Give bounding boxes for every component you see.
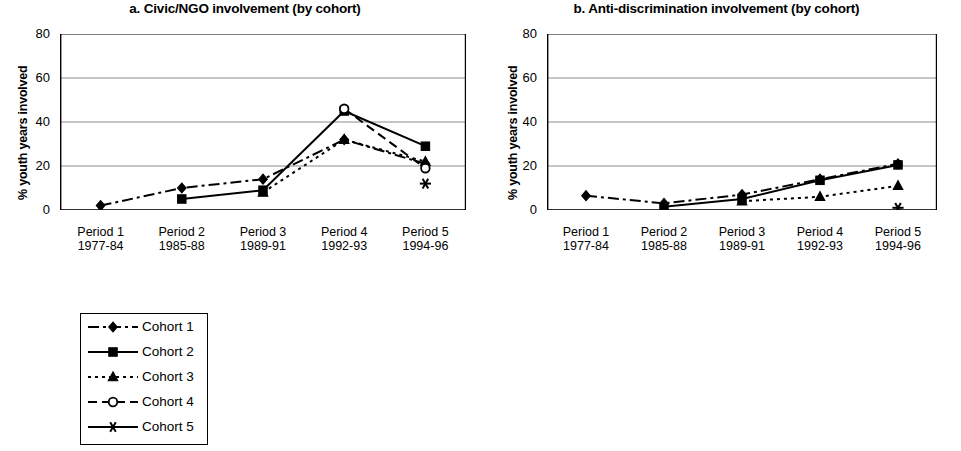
chart-panel-a: a. Civic/NGO involvement (by cohort) % y…	[0, 0, 490, 300]
x-category-years: 1994-96	[385, 239, 466, 253]
legend-label: Cohort 5	[142, 419, 194, 434]
y-tick-label: 60	[20, 71, 50, 84]
marker-diamond	[109, 322, 118, 332]
x-category-years: 1989-91	[703, 239, 781, 253]
legend-symbol-star	[85, 416, 141, 438]
x-category-years: 1985-88	[141, 239, 222, 253]
x-category-label: Period 51994-96	[859, 225, 937, 253]
x-category-label: Period 21985-88	[625, 225, 703, 253]
chart-b-svg	[547, 34, 937, 210]
x-category-years: 1992-93	[781, 239, 859, 253]
x-category-name: Period 2	[625, 225, 703, 239]
x-category-label: Period 41992-93	[781, 225, 859, 253]
y-tick-label: 80	[20, 27, 50, 40]
marker-square	[421, 142, 429, 150]
x-category-name: Period 2	[141, 225, 222, 239]
x-category-years: 1977-84	[60, 239, 141, 253]
y-tick-label: 20	[507, 159, 537, 172]
y-tick-label: 40	[507, 115, 537, 128]
legend-item-cohort-5[interactable]: Cohort 5	[81, 414, 207, 439]
marker-diamond	[259, 174, 268, 184]
marker-square	[178, 195, 186, 203]
x-category-label: Period 31989-91	[222, 225, 303, 253]
x-category-label: Period 31989-91	[703, 225, 781, 253]
legend-item-cohort-3[interactable]: Cohort 3	[81, 364, 207, 389]
marker-diamond	[178, 183, 187, 193]
x-category-label: Period 11977-84	[547, 225, 625, 253]
x-category-years: 1977-84	[547, 239, 625, 253]
x-category-name: Period 4	[304, 225, 385, 239]
chart-a-y-axis-label: % youth years involved	[16, 65, 30, 200]
marker-circle-open	[340, 105, 349, 114]
chart-b-title: b. Anti-discrimination involvement (by c…	[490, 1, 961, 16]
x-category-name: Period 4	[781, 225, 859, 239]
legend-symbol-triangle	[85, 366, 141, 388]
marker-circle-open	[109, 397, 118, 406]
marker-diamond	[96, 201, 105, 210]
legend-symbol-diamond	[85, 316, 141, 338]
x-category-label: Period 21985-88	[141, 225, 222, 253]
y-tick-label: 60	[507, 71, 537, 84]
marker-star	[892, 203, 903, 210]
figure-root: a. Civic/NGO involvement (by cohort) % y…	[0, 0, 961, 451]
chart-a-svg	[60, 34, 466, 210]
series-line-cohort-2	[182, 111, 426, 199]
x-category-name: Period 5	[859, 225, 937, 239]
marker-square	[109, 347, 117, 355]
chart-b-plot-area	[547, 34, 937, 210]
x-category-label: Period 11977-84	[60, 225, 141, 253]
chart-a-plot-area	[60, 34, 466, 210]
legend-label: Cohort 3	[142, 369, 194, 384]
chart-panel-b: b. Anti-discrimination involvement (by c…	[490, 0, 961, 300]
x-category-name: Period 3	[222, 225, 303, 239]
marker-star	[107, 422, 118, 432]
legend-symbol-square	[85, 341, 141, 363]
legend-label: Cohort 4	[142, 394, 194, 409]
x-category-years: 1985-88	[625, 239, 703, 253]
marker-triangle	[893, 181, 903, 190]
marker-diamond	[582, 191, 591, 201]
x-category-name: Period 1	[60, 225, 141, 239]
x-category-years: 1994-96	[859, 239, 937, 253]
x-category-years: 1992-93	[304, 239, 385, 253]
x-category-name: Period 5	[385, 225, 466, 239]
x-category-name: Period 1	[547, 225, 625, 239]
y-tick-label: 0	[20, 203, 50, 216]
y-tick-label: 80	[507, 27, 537, 40]
y-tick-label: 40	[20, 115, 50, 128]
legend-item-cohort-2[interactable]: Cohort 2	[81, 339, 207, 364]
x-category-label: Period 51994-96	[385, 225, 466, 253]
x-category-name: Period 3	[703, 225, 781, 239]
legend-item-cohort-1[interactable]: Cohort 1	[81, 314, 207, 339]
legend: Cohort 1Cohort 2Cohort 3Cohort 4Cohort 5	[80, 313, 208, 445]
marker-circle-open	[421, 164, 430, 173]
series-line-cohort-4	[344, 109, 425, 168]
y-tick-label: 20	[20, 159, 50, 172]
legend-label: Cohort 1	[142, 319, 194, 334]
chart-b-y-axis-label: % youth years involved	[506, 65, 520, 200]
x-category-label: Period 41992-93	[304, 225, 385, 253]
marker-triangle	[815, 192, 825, 201]
marker-square	[660, 203, 668, 211]
chart-a-title: a. Civic/NGO involvement (by cohort)	[0, 1, 490, 16]
marker-square	[816, 176, 824, 184]
legend-label: Cohort 2	[142, 344, 194, 359]
legend-item-cohort-4[interactable]: Cohort 4	[81, 389, 207, 414]
x-category-years: 1989-91	[222, 239, 303, 253]
marker-star	[420, 179, 431, 189]
legend-symbol-circle-open	[85, 391, 141, 413]
y-tick-label: 0	[507, 203, 537, 216]
marker-square	[894, 161, 902, 169]
